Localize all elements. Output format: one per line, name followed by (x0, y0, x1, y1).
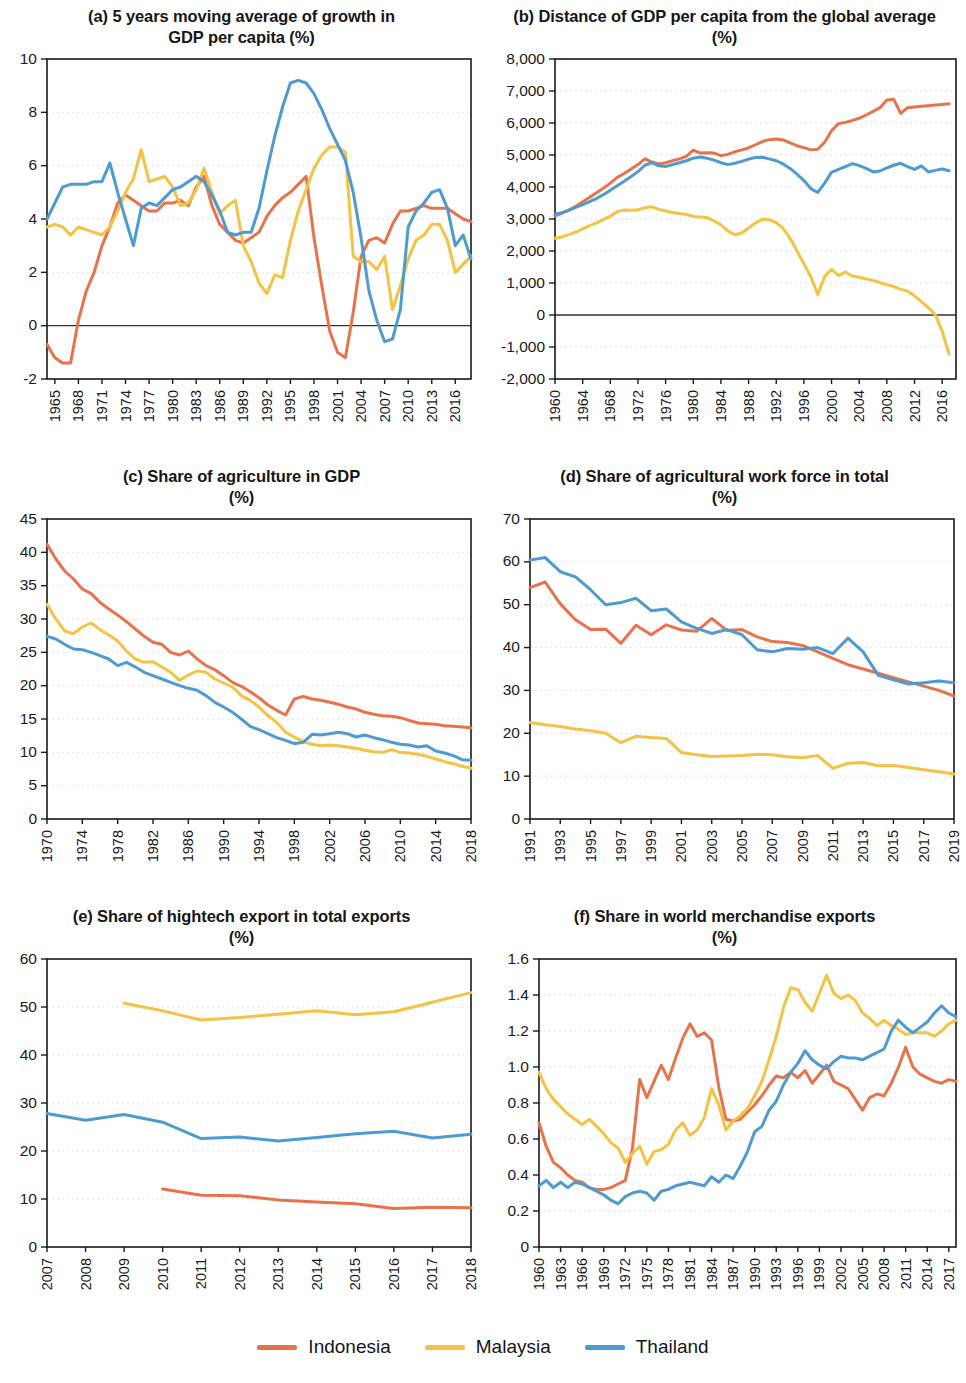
x-tick-label: 2016 (934, 390, 950, 422)
x-tick-label: 2001 (330, 390, 346, 422)
x-tick-label: 2016 (447, 390, 463, 422)
y-tick-label: 4,000 (506, 177, 545, 194)
y-tick-label: 6,000 (506, 113, 545, 130)
y-tick-label: 8,000 (506, 49, 545, 66)
x-tick-label: 2008 (879, 390, 895, 422)
x-tick-label: 1994 (251, 830, 267, 862)
chart-panel-e: (e) Share of hightech export in total ex… (0, 900, 483, 1320)
legend-label: Thailand (636, 1336, 709, 1358)
x-tick-label: 1984 (704, 1258, 720, 1290)
x-tick-label: 1983 (188, 390, 204, 422)
x-tick-label: 1975 (639, 1258, 655, 1290)
x-tick-label: 2018 (463, 1258, 479, 1290)
panel-title-line1: (f) Share in world merchandise exports (574, 907, 876, 925)
x-tick-label: 2005 (855, 1258, 871, 1290)
y-tick-label: 6 (28, 156, 37, 173)
x-tick-label: 1966 (574, 1258, 590, 1290)
x-tick-label: 2014 (428, 830, 444, 862)
legend-swatch-icon (425, 1345, 465, 1350)
y-tick-label: 0 (28, 809, 37, 826)
series-line-malaysia (530, 722, 954, 773)
y-tick-label: 0.2 (507, 1201, 529, 1218)
y-tick-label: -2,000 (501, 369, 545, 386)
x-tick-label: 1982 (145, 830, 161, 862)
x-tick-label: 1995 (583, 830, 599, 862)
y-tick-label: 0 (28, 316, 37, 333)
y-tick-label: 10 (503, 767, 521, 784)
x-tick-label: 2013 (270, 1258, 286, 1290)
x-tick-label: 1999 (811, 1258, 827, 1290)
x-tick-label: 1981 (682, 1258, 698, 1290)
x-tick-label: 2014 (919, 1258, 935, 1290)
x-tick-label: 1995 (282, 390, 298, 422)
y-tick-label: 40 (503, 638, 521, 655)
x-tick-label: 2007 (764, 830, 780, 862)
y-tick-label: 8 (28, 103, 37, 120)
x-tick-label: 1992 (259, 390, 275, 422)
legend-item-indonesia: Indonesia (257, 1336, 390, 1358)
legend-item-malaysia: Malaysia (425, 1336, 551, 1358)
y-tick-label: 10 (20, 743, 38, 760)
y-tick-label: 20 (20, 1141, 38, 1158)
x-tick-label: 2012 (232, 1258, 248, 1290)
y-tick-label: 0 (28, 1237, 37, 1254)
x-tick-label: 1960 (547, 390, 563, 422)
x-tick-label: 1990 (216, 830, 232, 862)
series-line-malaysia (555, 207, 949, 355)
x-tick-label: 2001 (673, 830, 689, 862)
plot-area-d: 0102030405060701991199319951997199920012… (483, 509, 966, 891)
x-tick-label: 1960 (531, 1258, 547, 1290)
y-tick-label: 25 (20, 643, 37, 660)
y-tick-label: 40 (20, 543, 38, 560)
x-tick-label: 1992 (768, 390, 784, 422)
x-tick-label: 1991 (522, 830, 538, 862)
panel-title-c: (c) Share of agriculture in GDP(%) (0, 460, 483, 509)
series-line-thailand (539, 1006, 956, 1204)
panel-title-d: (d) Share of agricultural work force in … (483, 460, 966, 509)
y-tick-label: 10 (20, 49, 38, 66)
plot-area-e: 0102030405060200720082009201020112012201… (0, 949, 483, 1313)
x-tick-label: 2013 (424, 390, 440, 422)
x-tick-label: 1990 (747, 1258, 763, 1290)
y-tick-label: 0 (511, 809, 520, 826)
plot-area-a: -202468101965196819711974197719801983198… (0, 49, 483, 453)
panel-title-line2: (%) (489, 927, 960, 948)
x-tick-label: 1969 (596, 1258, 612, 1290)
panel-title-line1: (d) Share of agricultural work force in … (560, 467, 888, 485)
y-tick-label: 50 (20, 997, 38, 1014)
legend-label: Indonesia (308, 1336, 390, 1358)
y-tick-label: 35 (20, 576, 37, 593)
panel-title-a: (a) 5 years moving average of growth inG… (0, 0, 483, 49)
series-line-malaysia (539, 975, 956, 1164)
legend-swatch-icon (257, 1345, 297, 1350)
x-tick-label: 1989 (235, 390, 251, 422)
x-tick-label: 1998 (306, 390, 322, 422)
y-tick-label: 1,000 (506, 273, 545, 290)
y-tick-label: 5 (28, 776, 37, 793)
y-tick-label: 15 (20, 709, 37, 726)
x-tick-label: 1986 (212, 390, 228, 422)
x-tick-label: 1964 (575, 390, 591, 422)
panel-title-b: (b) Distance of GDP per capita from the … (483, 0, 966, 49)
panel-title-line2: (%) (489, 487, 960, 508)
y-tick-label: 1.6 (507, 949, 529, 966)
chart-panel-a: (a) 5 years moving average of growth inG… (0, 0, 483, 460)
x-tick-label: 1980 (165, 390, 181, 422)
plot-area-c: 0510152025303540451970197419781982198619… (0, 509, 483, 891)
y-tick-label: 3,000 (506, 209, 545, 226)
chart-panel-f: (f) Share in world merchandise exports(%… (483, 900, 966, 1320)
x-tick-label: 2012 (907, 390, 923, 422)
x-tick-label: 1963 (553, 1258, 569, 1290)
x-tick-label: 2008 (78, 1258, 94, 1290)
x-tick-label: 2017 (941, 1258, 957, 1290)
y-tick-label: 5,000 (506, 145, 545, 162)
panel-title-e: (e) Share of hightech export in total ex… (0, 900, 483, 949)
x-tick-label: 2013 (855, 830, 871, 862)
x-tick-label: 1974 (74, 830, 90, 862)
panel-title-line1: (c) Share of agriculture in GDP (123, 467, 360, 485)
x-tick-label: 2015 (885, 830, 901, 862)
x-tick-label: 2000 (824, 390, 840, 422)
x-tick-label: 2002 (322, 830, 338, 862)
x-tick-label: 1970 (39, 830, 55, 862)
panel-title-line2: GDP per capita (%) (6, 27, 477, 48)
